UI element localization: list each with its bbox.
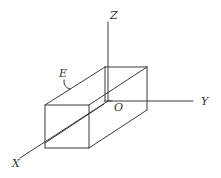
box-edge-bottom-right <box>89 110 147 148</box>
x-axis-label: X <box>12 158 20 169</box>
y-axis-label: Y <box>201 96 208 107</box>
edge-e-leader <box>64 80 70 89</box>
edge-label: E <box>59 68 67 79</box>
box-inner-edge <box>45 104 104 143</box>
coordinate-box-diagram <box>0 0 221 178</box>
box-edge-top-left <box>45 67 105 105</box>
origin-label: O <box>114 102 123 113</box>
z-axis-label: Z <box>110 10 118 21</box>
box-edge-top-right <box>89 67 147 105</box>
box-front-face <box>45 105 89 148</box>
